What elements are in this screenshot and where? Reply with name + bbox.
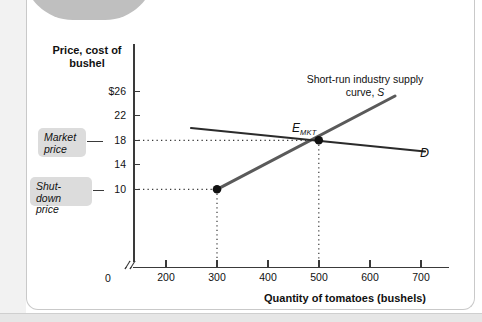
shut-down-price-callout-line1: Shut-down <box>36 180 61 204</box>
market-equilibrium-label-main: E <box>292 121 300 135</box>
market-price-callout-line1: Market <box>44 131 76 143</box>
supply-curve-label: Short-run industry supply curve, S <box>300 73 430 98</box>
supply-curve-line <box>217 96 395 189</box>
shut-down-price-callout: Shut-down price <box>30 177 92 206</box>
market-equilibrium-label: EMKT <box>292 121 316 137</box>
shut-down-price-connector <box>93 190 104 191</box>
market-equilibrium-label-sub: MKT <box>300 128 316 137</box>
supply-curve-label-text: Short-run industry supply curve, <box>307 73 424 98</box>
shut-down-price-callout-line2: price <box>36 203 59 215</box>
demand-curve-label: D <box>420 146 429 160</box>
market-price-callout: Market price <box>38 128 86 157</box>
market-price-connector <box>87 141 103 142</box>
shut-down-point-marker <box>213 185 222 194</box>
supply-curve-label-symbol: S <box>377 86 384 98</box>
market-price-callout-line2: price <box>44 143 67 155</box>
